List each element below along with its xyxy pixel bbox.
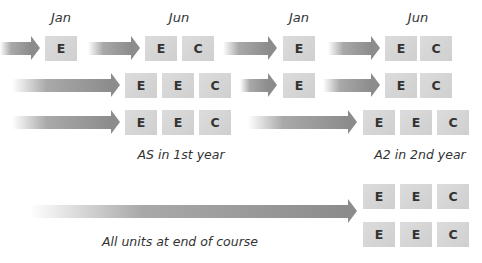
timeline-arrow xyxy=(88,36,140,61)
coursework-unit-box: C xyxy=(199,110,231,135)
coursework-unit-box: C xyxy=(437,184,469,209)
arrow-shaft xyxy=(30,205,348,218)
timeline-arrow xyxy=(12,110,120,135)
arrow-head-icon xyxy=(348,110,357,134)
timeline-arrow xyxy=(0,36,40,61)
timeline-arrow xyxy=(328,36,380,61)
exam-unit-box: E xyxy=(400,184,432,209)
arrow-head-icon xyxy=(268,36,277,60)
arrow-head-icon xyxy=(111,73,120,97)
arrow-shaft xyxy=(12,116,111,129)
exam-unit-box: E xyxy=(145,36,177,61)
coursework-unit-box: C xyxy=(420,36,452,61)
arrow-shaft xyxy=(328,42,371,55)
arrow-shaft xyxy=(323,79,371,92)
arrow-head-icon xyxy=(131,36,140,60)
coursework-unit-box: C xyxy=(420,73,452,98)
exam-unit-box: E xyxy=(45,36,77,61)
arrow-head-icon xyxy=(371,73,380,97)
timeline-arrow xyxy=(240,73,277,98)
exam-unit-box: E xyxy=(125,110,157,135)
caption-as-first-year: AS in 1st year xyxy=(137,147,224,162)
caption-all-units: All units at end of course xyxy=(102,234,258,249)
coursework-unit-box: C xyxy=(182,36,214,61)
arrow-shaft xyxy=(12,79,111,92)
month-label-jan-2: Jan xyxy=(289,10,309,25)
coursework-unit-box: C xyxy=(199,73,231,98)
arrow-head-icon xyxy=(371,36,380,60)
caption-a2-second-year: A2 in 2nd year xyxy=(374,147,466,162)
arrow-head-icon xyxy=(348,199,357,223)
month-label-jun-2: Jun xyxy=(408,10,428,25)
exam-unit-box: E xyxy=(363,184,395,209)
month-label-jan-1: Jan xyxy=(51,10,71,25)
exam-unit-box: E xyxy=(283,73,315,98)
month-label-jun-1: Jun xyxy=(169,10,189,25)
exam-unit-box: E xyxy=(162,73,194,98)
exam-unit-box: E xyxy=(125,73,157,98)
exam-unit-box: E xyxy=(400,110,432,135)
exam-unit-box: E xyxy=(162,110,194,135)
arrow-head-icon xyxy=(111,110,120,134)
coursework-unit-box: C xyxy=(437,222,469,247)
arrow-shaft xyxy=(248,116,348,129)
arrow-shaft xyxy=(240,79,268,92)
exam-unit-box: E xyxy=(385,73,417,98)
exam-unit-box: E xyxy=(385,36,417,61)
timeline-arrow xyxy=(223,36,277,61)
timeline-arrow xyxy=(248,110,357,135)
exam-unit-box: E xyxy=(363,222,395,247)
timeline-arrow xyxy=(12,73,120,98)
arrow-head-icon xyxy=(31,36,40,60)
timeline-arrow xyxy=(323,73,380,98)
arrow-shaft xyxy=(88,42,131,55)
exam-unit-box: E xyxy=(283,36,315,61)
exam-unit-box: E xyxy=(363,110,395,135)
arrow-shaft xyxy=(0,42,31,55)
arrow-head-icon xyxy=(268,73,277,97)
arrow-shaft xyxy=(223,42,268,55)
exam-unit-box: E xyxy=(400,222,432,247)
end-of-course-arrow xyxy=(30,199,357,224)
coursework-unit-box: C xyxy=(437,110,469,135)
